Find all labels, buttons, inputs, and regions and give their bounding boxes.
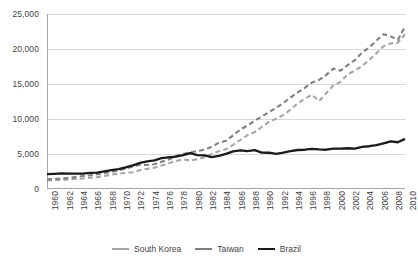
x-axis-tick-label: 2006 [380, 191, 390, 210]
x-axis-tick-label: 1964 [79, 191, 89, 210]
x-axis-tick-label: 1984 [222, 191, 232, 210]
x-axis-tick-label: 1978 [179, 191, 189, 210]
x-axis-tick-label: 1976 [165, 191, 175, 210]
x-axis-tick-label: 1960 [50, 191, 60, 210]
legend-item[interactable]: Brazil [258, 244, 301, 254]
x-axis-tick-label: 2008 [394, 191, 404, 210]
legend-label: Brazil [280, 244, 301, 254]
legend-item[interactable]: Taiwan [195, 244, 243, 254]
legend-item[interactable]: South Korea [112, 244, 181, 254]
legend-swatch-icon [258, 248, 275, 250]
x-axis-tick-label: 1986 [237, 191, 247, 210]
legend-label: South Korea [134, 244, 181, 254]
x-axis-tick-label: 1966 [93, 191, 103, 210]
legend-label: Taiwan [217, 244, 243, 254]
x-axis-tick-label: 1962 [65, 191, 75, 210]
x-axis-tick-label: 2002 [351, 191, 361, 210]
x-axis-tick-label: 1970 [122, 191, 132, 210]
x-axis-tick-label: 1980 [194, 191, 204, 210]
series-line-taiwan [47, 27, 405, 180]
x-axis-labels: 1960196219641966196819701972197419761978… [47, 191, 405, 235]
x-axis-tick-label: 1992 [280, 191, 290, 210]
x-axis-tick-label: 2010 [408, 191, 418, 210]
x-axis-tick-label: 1988 [251, 191, 261, 210]
x-axis-tick-label: 1998 [322, 191, 332, 210]
x-axis-tick-label: 1972 [136, 191, 146, 210]
x-axis-tick-label: 1994 [294, 191, 304, 210]
x-axis-tick-label: 2000 [337, 191, 347, 210]
legend-swatch-icon [195, 248, 212, 250]
legend-swatch-icon [112, 248, 129, 250]
x-axis-tick-label: 1990 [265, 191, 275, 210]
x-axis-tick-label: 2004 [365, 191, 375, 210]
chart-legend: South KoreaTaiwanBrazil [0, 240, 413, 258]
series-line-brazil [47, 139, 405, 174]
x-axis-tick-label: 1982 [208, 191, 218, 210]
series-line-south-korea [47, 34, 405, 180]
x-axis-tick-label: 1968 [108, 191, 118, 210]
x-axis-tick-label: 1974 [151, 191, 161, 210]
x-axis-tick-label: 1996 [308, 191, 318, 210]
